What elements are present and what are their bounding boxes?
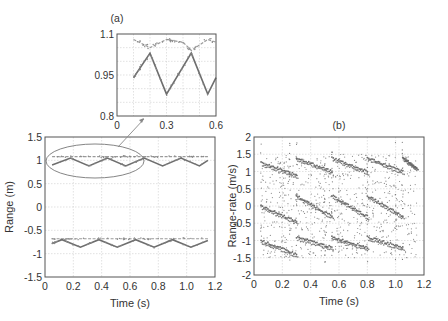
data-point xyxy=(413,239,414,240)
data-point xyxy=(337,240,339,242)
data-point xyxy=(297,198,299,200)
x-tick-label: 0.8 xyxy=(360,278,375,290)
data-point xyxy=(284,195,285,196)
data-point xyxy=(331,246,333,248)
data-point xyxy=(286,251,287,252)
data-point xyxy=(412,213,413,214)
data-point xyxy=(318,218,319,219)
data-point xyxy=(290,228,291,229)
data-point xyxy=(323,195,324,196)
data-point xyxy=(120,164,121,165)
data-point xyxy=(119,238,120,239)
data-point xyxy=(162,41,163,42)
data-point xyxy=(407,234,408,235)
data-point xyxy=(283,168,284,169)
data-point xyxy=(51,238,52,239)
data-point xyxy=(382,231,383,232)
data-point xyxy=(364,205,365,206)
data-point xyxy=(297,175,298,176)
data-point xyxy=(261,187,262,188)
data-point xyxy=(335,196,337,198)
data-point xyxy=(265,191,266,192)
data-point xyxy=(368,198,370,200)
data-point xyxy=(194,49,195,50)
data-point xyxy=(305,169,306,170)
data-point xyxy=(274,210,276,212)
data-point xyxy=(388,192,389,193)
data-point xyxy=(354,206,355,207)
data-point xyxy=(296,199,297,200)
data-point xyxy=(349,244,351,246)
y-axis-label: Range-rate (m/s) xyxy=(226,164,238,247)
data-point xyxy=(135,75,136,76)
data-point xyxy=(166,164,167,165)
data-point xyxy=(192,55,193,56)
data-point xyxy=(329,202,330,203)
data-point xyxy=(277,214,279,216)
data-point xyxy=(262,243,264,245)
data-point xyxy=(395,157,396,158)
data-point xyxy=(278,163,279,164)
data-point xyxy=(299,168,300,169)
data-point xyxy=(366,246,367,247)
data-point xyxy=(354,169,356,171)
data-point xyxy=(415,184,416,185)
data-point xyxy=(338,238,340,240)
data-point xyxy=(314,216,315,217)
data-point xyxy=(405,156,406,157)
data-point xyxy=(394,185,395,186)
data-point xyxy=(374,226,375,227)
data-point xyxy=(301,240,303,242)
data-point xyxy=(266,201,267,202)
data-point xyxy=(331,208,332,209)
data-point xyxy=(278,206,279,207)
data-point xyxy=(347,230,348,231)
data-point xyxy=(325,235,326,236)
data-point xyxy=(390,211,392,213)
data-point xyxy=(287,254,288,255)
data-point xyxy=(354,246,356,248)
data-point xyxy=(327,216,329,218)
data-point xyxy=(65,157,66,158)
data-point xyxy=(284,242,285,243)
data-point xyxy=(348,257,349,258)
data-point xyxy=(332,238,333,239)
data-point xyxy=(362,193,363,194)
data-point xyxy=(289,233,290,234)
data-point xyxy=(263,227,264,228)
data-point xyxy=(72,158,73,159)
data-point xyxy=(272,174,273,175)
data-point xyxy=(300,241,302,243)
data-point xyxy=(402,168,403,169)
data-point xyxy=(359,233,360,234)
data-point xyxy=(362,248,363,249)
data-point xyxy=(325,261,326,262)
data-point xyxy=(373,216,374,217)
data-point xyxy=(260,230,261,231)
data-point xyxy=(288,210,289,211)
data-point xyxy=(270,246,271,247)
data-point xyxy=(402,154,403,155)
data-point xyxy=(170,40,171,41)
data-point xyxy=(98,237,99,238)
data-point xyxy=(166,95,167,96)
data-point xyxy=(324,199,325,200)
data-point xyxy=(410,211,411,212)
data-point xyxy=(320,160,321,161)
data-point xyxy=(280,195,281,196)
data-point xyxy=(330,248,332,250)
data-point xyxy=(366,206,367,207)
data-point xyxy=(320,245,322,247)
data-point xyxy=(363,205,364,206)
data-point xyxy=(283,210,284,211)
data-point xyxy=(132,241,133,242)
data-point xyxy=(377,181,378,182)
data-point xyxy=(321,228,322,229)
data-point xyxy=(270,256,271,257)
data-point xyxy=(408,175,409,176)
data-point xyxy=(381,242,382,243)
data-point xyxy=(267,241,269,243)
data-point xyxy=(300,161,302,163)
data-point xyxy=(176,159,177,160)
data-point xyxy=(367,247,368,248)
